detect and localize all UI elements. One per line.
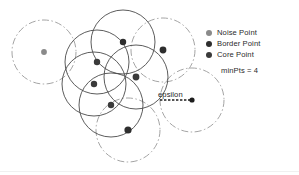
border-point-icon bbox=[206, 41, 212, 47]
solid-circles-group bbox=[62, 10, 168, 137]
legend-item-label: Core Point bbox=[217, 50, 254, 60]
epsilon-annotation-label: epsilon bbox=[158, 90, 183, 99]
legend-item-noise-point: Noise Point bbox=[206, 28, 298, 38]
data-point-core bbox=[91, 81, 97, 87]
data-point-noise bbox=[41, 49, 47, 55]
epsilon-arrow-endpoint-dot bbox=[189, 97, 194, 102]
bottom-divider bbox=[0, 171, 299, 172]
dashdot-circles-group bbox=[12, 18, 224, 162]
legend-item-label: Border Point bbox=[217, 39, 260, 49]
legend-item-core-point: Core Point bbox=[206, 50, 298, 60]
dbscan-diagram-svg bbox=[0, 0, 299, 175]
legend-item-label: Noise Point bbox=[217, 28, 257, 38]
minpts-annotation: minPts = 4 bbox=[221, 66, 258, 75]
noise-point-icon bbox=[206, 30, 212, 36]
core-point-icon bbox=[206, 52, 212, 58]
data-point-border bbox=[120, 39, 126, 45]
data-point-core bbox=[108, 102, 114, 108]
dbscan-figure: Noise Point Border Point Core Point minP… bbox=[0, 0, 299, 175]
legend: Noise Point Border Point Core Point bbox=[206, 28, 298, 61]
legend-item-border-point: Border Point bbox=[206, 39, 298, 49]
data-point-border bbox=[160, 47, 167, 54]
data-points-group bbox=[41, 39, 166, 134]
data-point-core bbox=[133, 74, 140, 81]
data-point-border bbox=[124, 126, 131, 133]
data-point-core bbox=[94, 59, 100, 65]
